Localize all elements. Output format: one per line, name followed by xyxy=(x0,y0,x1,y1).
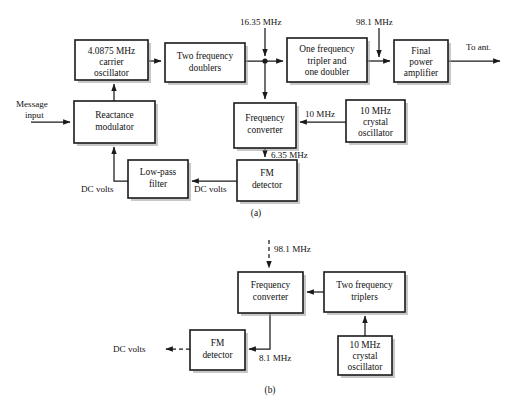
block-two-frequency-triplers-b[interactable]: Two frequency triplers xyxy=(324,272,408,315)
block-reactance-modulator[interactable]: Reactance modulator xyxy=(74,101,158,146)
block-label-line: oscillator xyxy=(348,362,384,372)
block-crystal-oscillator-b[interactable]: 10 MHz crystal oscillator xyxy=(338,336,395,378)
block-label-line: oscillator xyxy=(358,128,394,138)
signal-label-to-antenna: To ant. xyxy=(466,42,491,52)
block-label-line: oscillator xyxy=(94,68,130,78)
block-label-line: triplers xyxy=(351,292,378,302)
block-tripler-and-doubler[interactable]: One frequency tripler and one doubler xyxy=(287,38,370,85)
block-two-frequency-doublers[interactable]: Two frequency doublers xyxy=(165,43,248,85)
panel-caption-a: (a) xyxy=(251,208,261,219)
block-label-line: Reactance xyxy=(95,110,134,120)
panel-b: Frequency converter Two frequency triple… xyxy=(113,240,408,396)
block-carrier-oscillator[interactable]: 4.0875 MHz carrier oscillator xyxy=(75,40,151,83)
wire-lpf-to-reactance xyxy=(114,147,128,181)
panel-a: 4.0875 MHz carrier oscillator Two freque… xyxy=(16,17,500,219)
signal-label-message-line1: Message xyxy=(16,99,48,109)
signal-label-message-line2: input xyxy=(25,110,44,120)
block-label-line: carrier xyxy=(99,57,124,67)
figure-block-diagram: 4.0875 MHz carrier oscillator Two freque… xyxy=(0,0,521,403)
block-final-power-amplifier[interactable]: Final power amplifier xyxy=(394,40,451,85)
block-label-line: amplifier xyxy=(404,68,439,78)
block-fm-detector[interactable]: FM detector xyxy=(237,160,300,204)
block-fm-detector-b[interactable]: FM detector xyxy=(190,330,248,373)
block-frequency-converter-b[interactable]: Frequency converter xyxy=(238,272,306,316)
block-label-line: FM xyxy=(260,168,274,178)
block-label-line: Frequency xyxy=(245,113,285,123)
block-label-line: doublers xyxy=(189,63,222,73)
block-label-line: Two frequency xyxy=(336,280,393,290)
block-label-line: converter xyxy=(253,292,289,302)
block-label-line: power xyxy=(409,57,433,67)
block-label-line: one doubler xyxy=(305,67,350,77)
block-label-line: 10 MHz xyxy=(350,340,381,350)
signal-label-81mhz-b: 8.1 MHz xyxy=(259,353,291,363)
diagram-canvas: 4.0875 MHz carrier oscillator Two freque… xyxy=(0,0,521,403)
signal-label-dc-volts-right: DC volts xyxy=(194,184,227,194)
signal-label-981mhz: 98.1 MHz xyxy=(356,17,393,27)
block-label-line: 10 MHz xyxy=(360,106,391,116)
wire-converter-to-fmdet-b xyxy=(249,313,270,349)
block-crystal-oscillator[interactable]: 10 MHz crystal oscillator xyxy=(346,100,408,145)
block-label-line: detector xyxy=(202,350,233,360)
block-label-line: One frequency xyxy=(299,44,355,54)
block-label-line: Frequency xyxy=(251,280,291,290)
block-label-line: crystal xyxy=(363,117,388,127)
signal-label-10mhz: 10 MHz xyxy=(305,109,335,119)
block-label-line: FM xyxy=(211,338,225,348)
block-label-line: crystal xyxy=(353,351,378,361)
block-frequency-converter[interactable]: Frequency converter xyxy=(234,103,299,151)
block-label-line: Low-pass xyxy=(140,167,177,177)
block-label-line: converter xyxy=(247,125,283,135)
block-label-line: detector xyxy=(252,180,283,190)
panel-caption-b: (b) xyxy=(265,385,276,396)
block-label-line: Two frequency xyxy=(177,51,234,61)
block-label-line: 4.0875 MHz xyxy=(88,46,135,56)
signal-label-dc-volts-b: DC volts xyxy=(113,344,146,354)
signal-label-981mhz-b: 98.1 MHz xyxy=(274,244,311,254)
block-label-line: tripler and xyxy=(308,56,347,66)
signal-label-1635mhz: 16.35 MHz xyxy=(240,17,281,27)
block-label-line: filter xyxy=(149,179,168,189)
block-label-line: modulator xyxy=(95,122,134,132)
block-low-pass-filter[interactable]: Low-pass filter xyxy=(128,160,191,201)
block-label-line: Final xyxy=(411,46,431,56)
signal-label-635mhz: 6.35 MHz xyxy=(271,150,308,160)
signal-label-dc-volts-left: DC volts xyxy=(81,184,114,194)
